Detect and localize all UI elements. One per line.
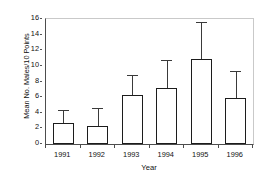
- x-tick-mark: [218, 144, 219, 148]
- y-tick-mark: [40, 81, 42, 82]
- bar: [53, 123, 74, 144]
- x-tick-mark: [252, 144, 253, 148]
- y-tick-label: 16: [31, 14, 39, 22]
- x-tick-label: 1996: [218, 150, 252, 159]
- x-tick-mark: [80, 144, 81, 148]
- bar-chart-figure: Mean No. Males/10 Points 0246810121416 1…: [0, 0, 263, 180]
- y-tick-label: 6: [35, 92, 39, 100]
- plot-area: [45, 18, 254, 145]
- bar: [191, 59, 212, 144]
- error-bar-stem: [201, 22, 202, 59]
- y-tick-mark: [40, 34, 42, 35]
- y-tick-label: 8: [35, 77, 39, 85]
- y-tick-mark: [40, 127, 42, 128]
- y-tick-label: 10: [31, 61, 39, 69]
- error-bar-cap: [92, 108, 103, 109]
- y-tick-label: 14: [31, 30, 39, 38]
- y-tick-label: 12: [31, 45, 39, 53]
- y-tick-mark: [40, 18, 42, 19]
- y-tick-mark: [40, 65, 42, 66]
- y-tick-mark: [40, 143, 42, 144]
- x-tick-mark: [183, 144, 184, 148]
- error-bar-stem: [236, 71, 237, 98]
- bar: [122, 95, 143, 144]
- x-tick-label: 1994: [149, 150, 183, 159]
- error-bar-cap: [127, 75, 138, 76]
- error-bar-cap: [58, 110, 69, 111]
- x-axis-title: Year: [45, 163, 253, 172]
- y-tick-label: 4: [35, 108, 39, 116]
- error-bar-stem: [98, 108, 99, 126]
- error-bar-stem: [132, 75, 133, 95]
- plot-inner: [46, 19, 253, 144]
- error-bar-cap: [196, 22, 207, 23]
- x-tick-label: 1991: [45, 150, 79, 159]
- y-tick-label: 2: [35, 123, 39, 131]
- error-bar-stem: [167, 60, 168, 87]
- bar: [156, 88, 177, 144]
- x-tick-mark: [114, 144, 115, 148]
- y-tick-label: 0: [35, 139, 39, 147]
- y-tick-mark: [40, 49, 42, 50]
- x-tick-label: 1992: [80, 150, 114, 159]
- x-tick-mark: [149, 144, 150, 148]
- x-tick-label: 1995: [183, 150, 217, 159]
- bar: [87, 126, 108, 144]
- x-tick-label: 1993: [114, 150, 148, 159]
- y-tick-mark: [40, 112, 42, 113]
- y-axis-tick-labels: 0246810121416: [20, 14, 42, 146]
- y-tick-mark: [40, 96, 42, 97]
- bar: [225, 98, 246, 144]
- x-tick-mark: [45, 144, 46, 148]
- error-bar-stem: [63, 110, 64, 123]
- error-bar-cap: [161, 60, 172, 61]
- error-bar-cap: [230, 71, 241, 72]
